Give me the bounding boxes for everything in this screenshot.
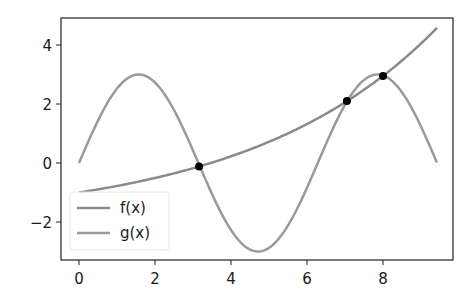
y-tick-label: 0 — [42, 155, 52, 173]
y-tick-label: 2 — [42, 96, 52, 114]
legend: f(x) g(x) — [70, 192, 169, 250]
x-tick-label: 6 — [302, 270, 312, 288]
x-tick-label: 2 — [150, 270, 160, 288]
intersection-marker — [379, 72, 387, 80]
figure-background — [0, 0, 475, 299]
legend-label-g: g(x) — [120, 224, 150, 242]
y-tick-label: −2 — [30, 214, 52, 232]
x-tick-label: 4 — [226, 270, 236, 288]
legend-label-f: f(x) — [120, 199, 146, 217]
intersection-marker — [195, 163, 203, 171]
line-chart: 02468 −2024 f(x) g(x) — [0, 0, 475, 299]
y-tick-label: 4 — [42, 37, 52, 55]
x-tick-label: 8 — [378, 270, 388, 288]
intersection-marker — [343, 97, 351, 105]
x-tick-label: 0 — [74, 270, 84, 288]
